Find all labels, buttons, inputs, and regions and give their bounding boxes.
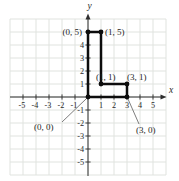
y-tick-label: 4	[80, 41, 84, 50]
x-tick-label: 4	[138, 101, 142, 110]
plotted-polygon	[88, 32, 127, 97]
vertex-point	[99, 82, 104, 87]
point-label: (1, 5)	[105, 27, 125, 37]
vertex-point	[86, 30, 91, 35]
y-tick-label: -4	[77, 145, 84, 154]
x-tick-label: -3	[45, 101, 52, 110]
vertex-point	[125, 82, 130, 87]
x-tick-label: -5	[19, 101, 26, 110]
y-tick-label: 2	[80, 67, 84, 76]
y-tick-label: -1	[77, 106, 84, 115]
y-tick-label: -5	[77, 158, 84, 167]
y-axis-label: y	[86, 1, 92, 11]
x-axis-label: x	[168, 85, 174, 95]
x-tick-label: 2	[112, 101, 116, 110]
x-tick-label: 1	[99, 101, 103, 110]
vertex-point	[86, 95, 91, 100]
vertex-point	[125, 95, 130, 100]
y-tick-label: 3	[80, 54, 84, 63]
vertex-point	[99, 30, 104, 35]
x-tick-label: -2	[58, 101, 65, 110]
coordinate-plane-figure: -5-4-3-2-1123454321-1-2-3-4-5xy(0, 5)(1,…	[0, 0, 179, 181]
y-axis-arrowhead-icon	[86, 14, 91, 20]
y-tick-label: -2	[77, 119, 84, 128]
x-tick-label: 5	[151, 101, 155, 110]
y-tick-label: -3	[77, 132, 84, 141]
x-tick-label: -4	[32, 101, 39, 110]
point-label: (3, 0)	[136, 125, 156, 135]
y-tick-label: 1	[80, 80, 84, 89]
coordinate-plane: -5-4-3-2-1123454321-1-2-3-4-5xy(0, 5)(1,…	[0, 0, 179, 181]
x-tick-label: 3	[125, 101, 129, 110]
point-label: (1, 1)	[96, 72, 116, 82]
point-label: (0, 0)	[34, 122, 54, 132]
point-label: (0, 5)	[63, 27, 83, 37]
point-label: (3, 1)	[127, 72, 147, 82]
